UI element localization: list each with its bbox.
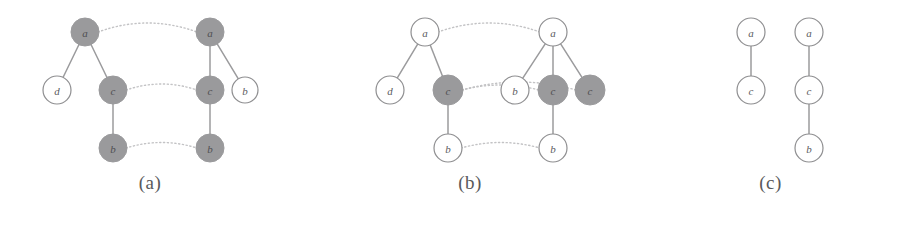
tree-edge [430, 44, 443, 77]
node-label: b [110, 143, 116, 155]
graph-node[interactable]: c [737, 76, 765, 104]
graph-node[interactable]: b [795, 134, 823, 162]
node-label: b [207, 143, 213, 155]
node-label: c [446, 85, 451, 97]
graph-node[interactable]: c [433, 75, 463, 105]
node-label: a [207, 27, 213, 39]
node-label: d [387, 85, 393, 97]
graph-node[interactable]: c [538, 75, 568, 105]
panel-a: adcbacbb (a) [0, 0, 300, 226]
node-label: b [512, 85, 518, 97]
graph-node[interactable]: a [196, 18, 224, 46]
match-edge [126, 143, 197, 149]
graph-node[interactable]: b [539, 134, 567, 162]
graph-node[interactable]: c [196, 76, 224, 104]
graph-node[interactable]: a [795, 18, 823, 46]
graph-node[interactable]: b [232, 77, 258, 103]
graph-node[interactable]: b [434, 134, 462, 162]
node-label: a [806, 27, 812, 39]
panel-a-graph: adcbacbb [0, 0, 300, 186]
node-label: c [111, 85, 116, 97]
graph-node[interactable]: a [737, 18, 765, 46]
graph-node[interactable]: b [501, 76, 529, 104]
node-layer: adcbabccb [376, 18, 605, 162]
panel-b: adcbabccb (b) [300, 0, 640, 226]
panel-b-graph: adcbabccb [300, 0, 640, 186]
panel-a-caption: (a) [0, 172, 300, 194]
panel-c-graph: acacb [640, 0, 901, 186]
tree-edge [522, 43, 546, 79]
graph-node[interactable]: c [99, 76, 127, 104]
graph-node[interactable]: c [795, 76, 823, 104]
graph-node[interactable]: d [376, 76, 404, 104]
node-label: a [748, 27, 754, 39]
node-label: a [82, 27, 88, 39]
match-edge [461, 143, 540, 149]
graph-node[interactable]: a [71, 18, 99, 46]
graph-node[interactable]: a [539, 18, 567, 46]
graph-node[interactable]: d [43, 76, 71, 104]
panel-c-caption: (c) [640, 172, 901, 194]
tree-edge [560, 43, 582, 78]
tree-edge [397, 43, 419, 79]
tree-edge [217, 43, 239, 80]
tree-edge [63, 44, 80, 79]
node-label: d [54, 85, 60, 97]
node-label: b [242, 85, 248, 97]
figure-container: adcbacbb (a) adcbabccb (b) acacb (c) [0, 0, 901, 226]
node-label: c [807, 85, 812, 97]
graph-node[interactable]: b [99, 134, 127, 162]
panel-b-caption: (b) [300, 172, 640, 194]
tree-edge [91, 44, 108, 79]
node-label: a [550, 27, 556, 39]
node-label: b [445, 143, 451, 155]
graph-node[interactable]: a [411, 18, 439, 46]
panel-c: acacb (c) [640, 0, 901, 226]
node-label: c [588, 85, 593, 97]
node-layer: acacb [737, 18, 823, 162]
node-label: b [806, 143, 812, 155]
node-label: a [422, 27, 428, 39]
node-label: c [749, 85, 754, 97]
node-label: b [550, 143, 556, 155]
match-edge [438, 23, 540, 32]
node-label: c [208, 85, 213, 97]
node-label: c [551, 85, 556, 97]
node-layer: adcbacbb [43, 18, 258, 162]
match-edge [126, 84, 197, 90]
graph-node[interactable]: c [575, 75, 605, 105]
graph-node[interactable]: b [196, 134, 224, 162]
match-edge [98, 23, 197, 32]
